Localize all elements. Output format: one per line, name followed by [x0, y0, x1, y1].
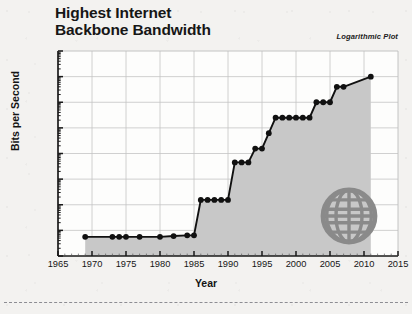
- dashed-cut-line: [4, 302, 408, 303]
- chart-svg: [0, 0, 412, 314]
- globe-icon: [323, 190, 375, 242]
- plot-area: [0, 0, 412, 314]
- chart-page: Highest Internet Backbone Bandwidth Loga…: [0, 0, 412, 314]
